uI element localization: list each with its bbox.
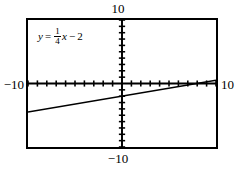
equation-constant: 2 <box>77 31 83 42</box>
equation-equals: = <box>45 31 51 42</box>
equation-annotation: y = 1 4 x − 2 <box>38 27 83 46</box>
axis-label-left: −10 <box>1 78 24 91</box>
equation-fraction: 1 4 <box>54 27 61 46</box>
equation-variable: x <box>62 31 67 42</box>
fraction-denominator: 4 <box>54 37 61 46</box>
axis-label-bottom: −10 <box>0 152 236 165</box>
axis-label-right: 10 <box>221 78 234 91</box>
fraction-numerator: 1 <box>54 27 61 36</box>
equation-lhs: y <box>38 31 43 42</box>
axis-label-top: 10 <box>0 2 236 15</box>
graph-figure: 10 −10 10 −10 <box>0 0 236 171</box>
plot-viewport: y = 1 4 x − 2 <box>26 18 218 149</box>
equation-operator: − <box>69 31 75 42</box>
